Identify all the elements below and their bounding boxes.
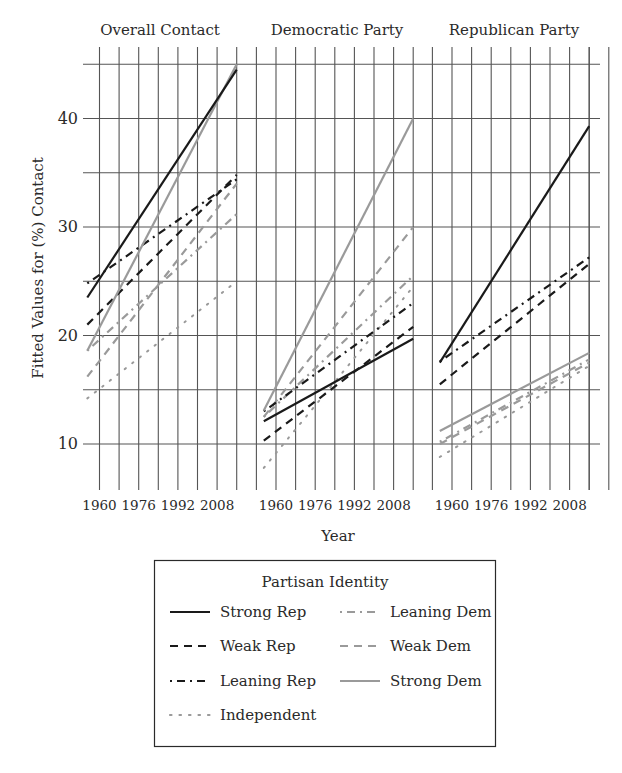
series-line-leaning-rep xyxy=(264,303,413,411)
x-tick-label: 1960 xyxy=(435,497,469,513)
x-tick-label: 1976 xyxy=(474,497,508,513)
faceted-line-chart: Overall Contact Democratic Party Republi… xyxy=(0,0,622,773)
x-tick-label: 1960 xyxy=(259,497,293,513)
series-line-independent xyxy=(264,287,413,468)
x-tick-label: 1992 xyxy=(337,497,371,513)
series-line-independent xyxy=(87,281,236,398)
series-line-weak-rep xyxy=(264,327,413,441)
series-line-weak-rep xyxy=(87,175,236,325)
x-tick-label: 1992 xyxy=(161,497,195,513)
x-tick-label: 2008 xyxy=(552,497,586,513)
panel-title-overall: Overall Contact xyxy=(100,21,220,39)
panel-titles: Overall Contact Democratic Party Republi… xyxy=(100,21,580,39)
grid xyxy=(83,47,609,490)
series-lines xyxy=(87,64,589,468)
series-line-strong-dem xyxy=(440,353,589,431)
series-line-strong-rep xyxy=(264,339,413,421)
series-line-independent xyxy=(440,366,589,457)
series-line-weak-dem xyxy=(440,363,589,444)
legend-label-independent: Independent xyxy=(220,706,316,724)
series-line-weak-dem xyxy=(87,184,236,377)
x-tick-label: 1976 xyxy=(298,497,332,513)
series-line-weak-dem xyxy=(264,227,413,417)
series-line-weak-rep xyxy=(440,264,589,384)
y-tick-label: 10 xyxy=(58,434,78,453)
legend-title: Partisan Identity xyxy=(262,573,389,591)
x-tick-label: 1976 xyxy=(122,497,156,513)
x-tick-label: 2008 xyxy=(200,497,234,513)
series-line-strong-dem xyxy=(264,119,413,411)
x-tick-label: 2008 xyxy=(376,497,410,513)
series-line-strong-rep xyxy=(440,126,589,363)
y-tick-label: 20 xyxy=(58,326,78,345)
series-line-strong-dem xyxy=(87,64,236,350)
legend: Partisan Identity Strong RepWeak RepLean… xyxy=(155,561,496,747)
x-axis-ticks: 1960197619922008196019761992200819601976… xyxy=(82,497,586,513)
panel-title-republican: Republican Party xyxy=(449,21,580,39)
x-axis-label: Year xyxy=(320,527,355,545)
legend-label-leaning-rep: Leaning Rep xyxy=(220,672,316,690)
series-line-leaning-rep xyxy=(440,257,589,361)
series-line-strong-rep xyxy=(87,70,236,298)
legend-label-weak-rep: Weak Rep xyxy=(220,637,296,655)
y-tick-label: 30 xyxy=(58,217,78,236)
legend-label-strong-dem: Strong Dem xyxy=(390,672,482,690)
legend-label-strong-rep: Strong Rep xyxy=(220,603,306,621)
y-tick-label: 40 xyxy=(58,109,78,128)
y-axis-ticks: 10203040 xyxy=(58,109,78,454)
series-line-leaning-dem xyxy=(87,214,236,351)
legend-label-weak-dem: Weak Dem xyxy=(390,637,471,655)
legend-label-leaning-dem: Leaning Dem xyxy=(390,603,491,621)
x-tick-label: 1960 xyxy=(82,497,116,513)
x-tick-label: 1992 xyxy=(513,497,547,513)
series-line-leaning-rep xyxy=(87,179,236,283)
series-line-leaning-dem xyxy=(440,359,589,441)
panel-title-democratic: Democratic Party xyxy=(271,21,404,39)
y-axis-label: Fitted Values for (%) Contact xyxy=(29,157,47,379)
